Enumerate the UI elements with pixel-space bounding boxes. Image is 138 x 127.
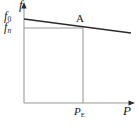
- figure-canvas: [0, 0, 138, 127]
- droop-characteristic-figure: f f0 fn A PE P: [0, 0, 138, 127]
- point-a-label: A: [76, 13, 84, 24]
- x-axis-label: P: [123, 104, 131, 117]
- x-tick-label-pe: PE: [74, 106, 85, 117]
- y-axis-label: f: [19, 0, 23, 11]
- y-tick-label-fn: fn: [4, 21, 11, 33]
